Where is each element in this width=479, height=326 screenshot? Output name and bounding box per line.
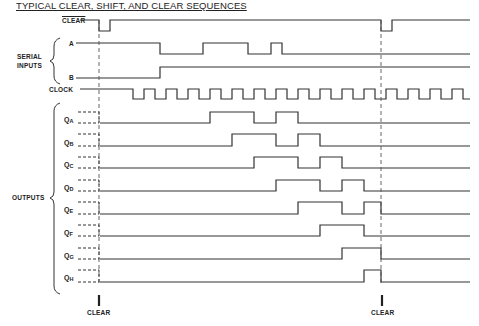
- qd-waveform: [100, 180, 470, 191]
- qf-waveform: [100, 225, 470, 236]
- clock-waveform: [80, 89, 470, 99]
- outputs-brace: [50, 103, 60, 294]
- serial-b-waveform: [76, 67, 470, 78]
- serial-a-waveform: [76, 43, 470, 54]
- qh-waveform: [100, 270, 470, 282]
- qg-waveform: [100, 248, 470, 259]
- qe-waveform: [100, 202, 470, 214]
- serial-inputs-brace: [50, 38, 60, 84]
- qa-waveform: [100, 112, 470, 123]
- timing-diagram: [0, 0, 479, 326]
- clear-waveform: [80, 20, 470, 31]
- qb-waveform: [100, 134, 470, 146]
- qc-waveform: [100, 157, 470, 168]
